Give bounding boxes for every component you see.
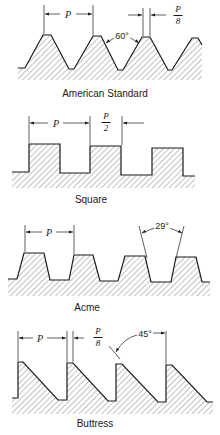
square-fraction-denominator: 2 — [104, 123, 109, 133]
acme-profile — [8, 225, 210, 296]
buttress-caption: Buttress — [77, 418, 114, 429]
american-angle-label: 60° — [114, 31, 130, 41]
buttress-fraction-numerator: P — [95, 326, 101, 336]
buttress-pitch-label: P — [37, 333, 43, 344]
buttress-angle-label: 45° — [137, 329, 153, 339]
american-pitch-label: P — [65, 9, 71, 20]
acme-angle-label: 29° — [154, 221, 170, 231]
acme-caption: Acme — [74, 302, 100, 313]
acme-pitch-label: P — [46, 227, 52, 238]
square-tooth-width-fraction: P 2 — [102, 112, 111, 133]
american-crest-flat-fraction: P 8 — [174, 5, 183, 26]
buttress-fraction-denominator: 8 — [96, 338, 101, 348]
square-fraction-numerator: P — [103, 111, 109, 121]
buttress-crest-flat-fraction: P 8 — [94, 327, 103, 348]
square-pitch-label: P — [53, 118, 59, 129]
thread-profiles-diagram — [0, 0, 220, 435]
american-fraction-numerator: P — [175, 4, 181, 14]
square-caption: Square — [75, 194, 107, 205]
american-standard-caption: American Standard — [62, 88, 148, 99]
american-fraction-denominator: 8 — [176, 16, 181, 26]
